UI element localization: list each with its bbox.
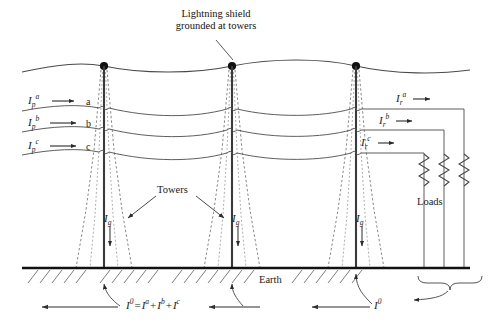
earth-hatching	[28, 270, 362, 283]
eq-term-b-sup: b	[161, 297, 165, 306]
tower-2-inner-right	[234, 72, 247, 268]
i0-sup: 0	[378, 297, 382, 306]
sup-c: c	[35, 137, 38, 146]
tower-3	[328, 66, 384, 268]
sup-a: a	[35, 92, 39, 101]
sub-g2: g	[236, 218, 240, 227]
conductor-c-span-1	[109, 152, 227, 160]
tower-3-inner-right	[358, 72, 371, 268]
loads-brace-arrow	[414, 291, 448, 300]
tower-2-inner-left	[218, 72, 231, 268]
tower-1-inner-left	[90, 72, 103, 268]
label-current-Irb: Irb	[379, 114, 389, 127]
lightning-shield-label-line2: grounded at towers	[176, 20, 256, 31]
zero-seq-curve-left	[104, 284, 120, 306]
zero-sequence-label-right: I0	[374, 299, 381, 312]
towers-arrow-left	[128, 196, 156, 218]
conductor-b-insulator-t3	[351, 128, 361, 131]
conductor-a-to-load	[361, 109, 464, 268]
tower-2	[204, 66, 260, 268]
sup-rb: b	[386, 112, 390, 121]
label-current-Ipa: Ipa	[28, 94, 39, 107]
conductor-a-span-1	[109, 108, 227, 116]
eq-plus-2: +	[165, 299, 173, 311]
transmission-line-diagram	[0, 0, 488, 327]
earth-group	[22, 268, 470, 283]
lightning-shield-label-line1: Lightning shield	[181, 8, 250, 19]
tower-3-leg-right	[359, 70, 384, 268]
conductor-c-to-load	[361, 153, 424, 268]
shield-wire	[22, 60, 470, 73]
shield-callout-arrow	[216, 40, 233, 60]
lightning-shield-label: Lightning shield grounded at towers	[152, 8, 280, 32]
conductor-c-insulator-t1	[99, 150, 109, 153]
tower-1	[76, 66, 132, 268]
conductor-b-insulator-t1	[99, 127, 109, 130]
sup-b: b	[35, 114, 39, 123]
sub-g3: g	[360, 218, 364, 227]
conductor-c-insulator-t3	[351, 151, 361, 154]
sending-current-arrows	[50, 101, 76, 146]
label-current-Ig-tower-1: Ig	[104, 212, 111, 225]
shield-wire-group	[22, 60, 470, 73]
eq-equals: =	[133, 299, 141, 311]
conductor-c-span-2	[237, 153, 351, 159]
towers-callout	[128, 196, 224, 218]
tower-3-inner-left	[342, 72, 355, 268]
loads-label: Loads	[417, 196, 443, 208]
eq-term-c-sup: c	[177, 297, 180, 306]
tower-2-leg-left	[204, 70, 229, 268]
label-current-Ig-tower-3: Ig	[356, 212, 363, 225]
ground-current-arrows	[110, 226, 362, 246]
figure-root: Lightning shield grounded at towers Ipa …	[0, 0, 488, 327]
phase-label-b: b	[86, 118, 91, 130]
sup-ra: a	[403, 90, 407, 99]
tower-2-leg-right	[235, 70, 260, 268]
tower-1-inner-right	[106, 72, 119, 268]
towers-arrow-right	[196, 196, 224, 218]
phase-label-c: c	[86, 141, 90, 153]
label-current-Ipc: Ipc	[28, 139, 39, 152]
conductor-b-span-1	[109, 129, 227, 137]
i0-curve-to-ground	[356, 274, 372, 304]
loads-brace	[418, 276, 482, 290]
eq-lhs-sup: 0	[130, 297, 134, 306]
label-current-Ira: Ira	[396, 92, 406, 105]
eq-term-a-sup: a	[145, 297, 149, 306]
tower-1-leg-right	[107, 70, 132, 268]
conductor-a-span-2	[237, 109, 351, 115]
phase-label-a: a	[86, 96, 90, 108]
tower-3-leg-left	[328, 70, 353, 268]
conductor-b-span-2	[237, 130, 351, 136]
earth-label: Earth	[259, 274, 282, 286]
sub-g1: g	[108, 218, 112, 227]
zero-sequence-equation: I0=Ia+Ib+Ic	[126, 299, 180, 312]
label-current-Irc: Irc	[361, 136, 371, 149]
zero-seq-curve-right	[232, 284, 243, 306]
towers-label: Towers	[157, 184, 188, 196]
sup-rc: c	[367, 134, 370, 143]
label-current-Ipb: Ipb	[28, 116, 39, 129]
conductor-c-insulator-t2	[227, 151, 237, 154]
label-current-Ig-tower-2: Ig	[232, 212, 239, 225]
conductor-b-insulator-t2	[227, 128, 237, 131]
